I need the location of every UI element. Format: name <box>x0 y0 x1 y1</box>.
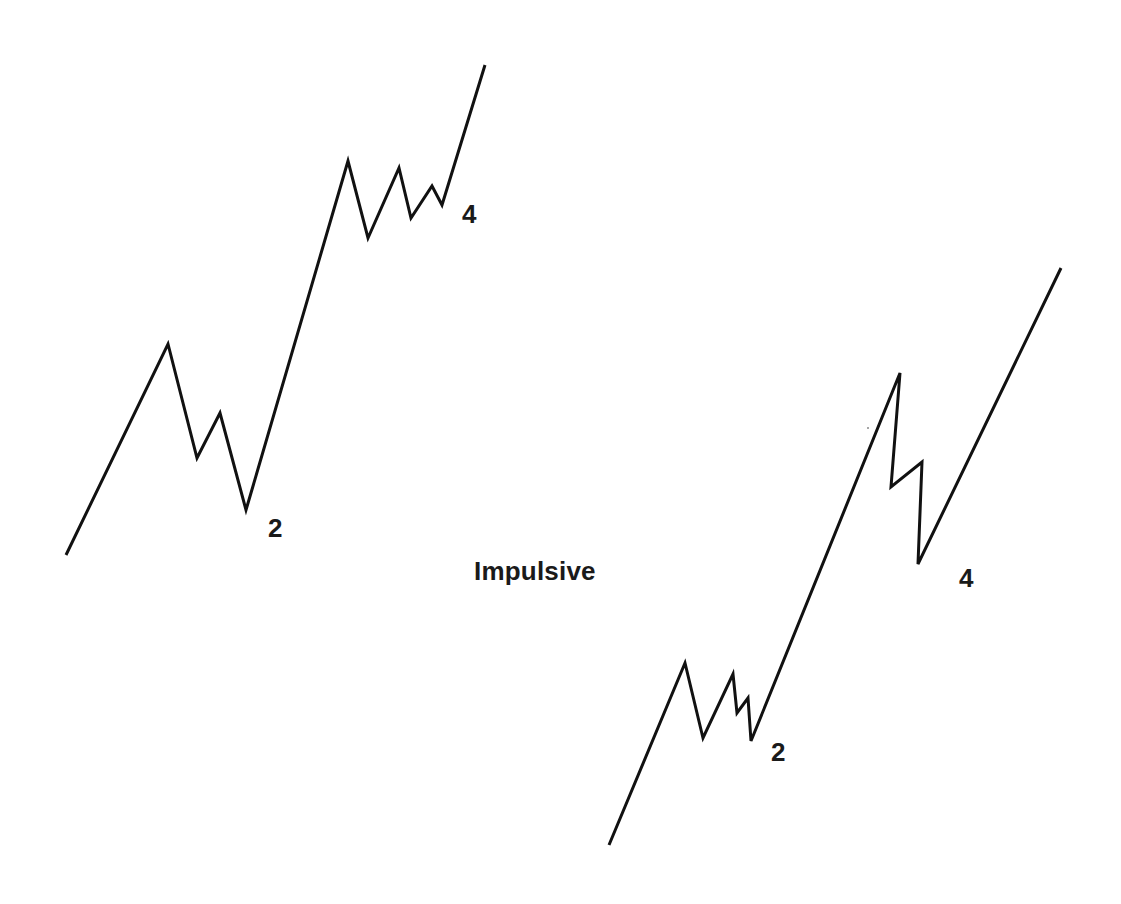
right-wave-2-label: 2 <box>771 739 785 765</box>
impulsive-wave-diagram <box>0 0 1121 904</box>
scan-speck-decoration <box>867 427 869 429</box>
left-wave-2-label: 2 <box>268 515 282 541</box>
right-impulse-wave-line <box>609 268 1061 845</box>
left-impulse-wave-line <box>66 65 485 555</box>
diagram-title: Impulsive <box>474 558 596 584</box>
left-wave-4-label: 4 <box>462 201 476 227</box>
right-wave-4-label: 4 <box>959 565 973 591</box>
